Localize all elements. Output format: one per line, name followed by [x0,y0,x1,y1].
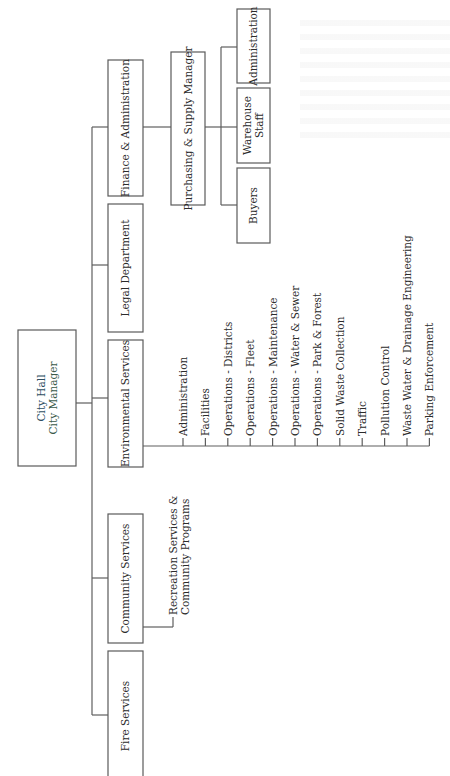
env-item: Operations - Park & Forest [311,292,323,436]
node-warehouse-label-text: Staff [253,111,265,138]
env-item-text: Operations - Water & Sewer [289,285,301,436]
env-item-text: Operations - Districts [222,322,234,436]
node-city-hall-label-text: City Manager [47,361,59,435]
community-item-text: Community Programs [179,499,191,615]
env-item: Solid Waste Collection [334,316,346,436]
env-item: Operations - Maintenance [267,297,279,436]
env-item: Operations - Districts [222,322,234,436]
node-purchasing-label-text: Purchasing & Supply Manager [182,46,194,211]
node-community-label: Community Services [119,524,131,634]
node-legal-label: Legal Department [119,219,131,317]
env-item-text: Facilities [199,388,211,436]
node-fire-label-text: Fire Services [119,681,131,751]
env-item-text: Administration [177,356,189,437]
node-buyers-label: Buyers [247,187,259,224]
node-environmental-label-text: Environmental Services [119,340,131,467]
org-nodes: City HallCity ManagerFinance & Administr… [18,6,435,776]
env-item: Operations - Fleet [244,339,256,436]
env-item-text: Traffic [356,401,368,436]
node-finance-label: Finance & Administration [119,59,131,197]
env-item: Waste Water & Drainage Engineering [401,235,413,436]
env-item: Administration [177,356,189,437]
env-item: Traffic [356,401,368,436]
node-warehouse-label-text: Warehouse [241,96,253,155]
node-legal-label-text: Legal Department [119,219,131,317]
env-item-text: Operations - Park & Forest [311,292,323,436]
env-item-text: Pollution Control [379,345,391,436]
community-item-text: Recreation Services & [167,496,179,615]
node-pur-admin-label-text: Administration [247,6,259,87]
community-item: Recreation Services &Community Programs [167,496,191,615]
env-item: Facilities [199,388,211,436]
env-item: Operations - Water & Sewer [289,285,301,436]
node-purchasing-label: Purchasing & Supply Manager [182,46,194,211]
env-item-text: Solid Waste Collection [334,316,346,436]
env-item: Pollution Control [379,345,391,436]
env-item-text: Operations - Maintenance [267,297,279,436]
node-fire-label: Fire Services [119,681,131,751]
env-item-text: Parking Enforcement [423,322,435,436]
node-pur-admin-label: Administration [247,6,259,87]
node-environmental-label: Environmental Services [119,340,131,467]
env-item: Parking Enforcement [423,322,435,436]
node-community-label-text: Community Services [119,524,131,634]
env-item-text: Operations - Fleet [244,339,256,436]
env-item-text: Waste Water & Drainage Engineering [401,235,413,436]
node-finance-label-text: Finance & Administration [119,59,131,197]
node-buyers-label-text: Buyers [247,187,259,224]
node-city-hall-label-text: City Hall [35,374,47,422]
